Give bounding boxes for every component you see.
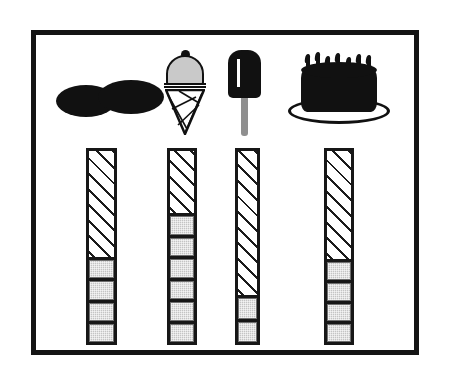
bar-cake[interactable]: [324, 148, 354, 345]
bar-cell: [238, 322, 257, 343]
bar-cookies-empty-segment: [89, 151, 114, 266]
pictograph-worksheet: [0, 0, 449, 380]
bar-cell: [170, 238, 194, 257]
bar-cell: [170, 281, 194, 300]
bar-ice-cream[interactable]: [167, 148, 197, 345]
bar-cell: [89, 260, 114, 278]
bar-cell: [89, 281, 114, 299]
bar-cookies-filled-segment: [86, 257, 117, 345]
bar-ice-cream-empty-segment: [170, 151, 194, 222]
bar-cell: [170, 302, 194, 321]
bar-cell: [327, 262, 351, 280]
bar-popsicle-filled-segment: [235, 295, 260, 345]
bar-cell: [170, 259, 194, 278]
bar-cell: [170, 216, 194, 235]
bar-cell: [89, 324, 114, 342]
bar-cell: [89, 303, 114, 321]
bar-cell: [327, 324, 351, 342]
bar-cell: [327, 283, 351, 301]
bar-cake-empty-segment: [327, 151, 351, 268]
bar-cake-filled-segment: [324, 259, 354, 345]
bar-cell: [238, 298, 257, 319]
bar-cookies[interactable]: [86, 148, 117, 345]
bar-popsicle[interactable]: [235, 148, 260, 345]
bar-cell: [170, 324, 194, 343]
bar-cell: [327, 304, 351, 322]
bar-ice-cream-filled-segment: [167, 213, 197, 345]
bar-popsicle-empty-segment: [238, 151, 257, 304]
